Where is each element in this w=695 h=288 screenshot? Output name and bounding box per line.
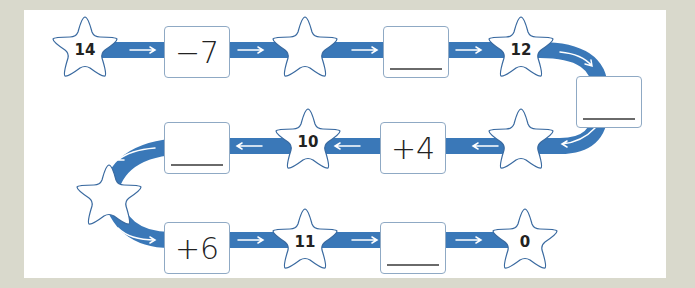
star-blank[interactable] — [74, 162, 144, 228]
operation-box: +6 — [164, 222, 230, 274]
answer-box[interactable] — [383, 26, 449, 78]
answer-line — [387, 264, 439, 266]
star-number: 0 — [490, 206, 560, 272]
answer-line — [390, 68, 442, 70]
star-number — [270, 14, 340, 80]
star-number — [486, 106, 556, 172]
operation-label: −7 — [175, 35, 219, 70]
star-blank[interactable] — [486, 106, 556, 172]
star-given: 12 — [486, 14, 556, 80]
star-start: 14 — [50, 14, 120, 80]
answer-box[interactable] — [576, 76, 642, 128]
star-number: 11 — [270, 206, 340, 272]
star-given: 11 — [270, 206, 340, 272]
star-number: 12 — [486, 14, 556, 80]
operation-box: −7 — [164, 26, 230, 78]
star-given: 10 — [273, 106, 343, 172]
star-number: 14 — [50, 14, 120, 80]
operation-label: +6 — [175, 231, 219, 266]
answer-box[interactable] — [164, 122, 230, 174]
answer-box[interactable] — [380, 222, 446, 274]
operation-box: +4 — [380, 122, 446, 174]
star-blank[interactable] — [270, 14, 340, 80]
star-number — [74, 162, 144, 228]
star-end: 0 — [490, 206, 560, 272]
operation-label: +4 — [391, 131, 435, 166]
answer-line — [583, 118, 635, 120]
answer-line — [171, 164, 223, 166]
star-number: 10 — [273, 106, 343, 172]
